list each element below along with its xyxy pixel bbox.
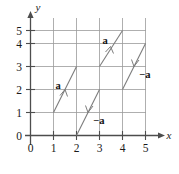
y-axis-arrowhead bbox=[27, 11, 33, 18]
x-tick-label-2: 2 bbox=[74, 142, 80, 154]
x-tick-label-4: 4 bbox=[120, 142, 126, 154]
y-tick-label-3: 3 bbox=[16, 61, 22, 73]
y-tick-label-0: 0 bbox=[16, 130, 22, 142]
grid-lines-horizontal bbox=[31, 31, 147, 113]
y-axis-label: y bbox=[35, 1, 41, 13]
y-tick-label-5: 5 bbox=[16, 25, 22, 37]
x-axis-label: x bbox=[166, 129, 172, 141]
x-axis-arrowhead bbox=[158, 132, 165, 138]
y-tick-label-2: 2 bbox=[16, 84, 22, 96]
y-tick-label-1: 1 bbox=[16, 107, 22, 119]
x-tick-label-0: 0 bbox=[28, 142, 34, 154]
coordinate-plot: 0 1 2 3 4 5 0 1 2 3 4 5 x y a a bbox=[0, 0, 179, 174]
x-tick-labels: 0 1 2 3 4 5 bbox=[28, 142, 149, 154]
vector-diagram-figure: 0 1 2 3 4 5 0 1 2 3 4 5 x y a a bbox=[0, 0, 179, 174]
y-tick-label-4: 4 bbox=[16, 38, 22, 50]
x-axis bbox=[25, 131, 165, 140]
vector-label-neg-a-1: −a bbox=[93, 115, 105, 126]
y-axis bbox=[26, 11, 35, 145]
x-tick-label-1: 1 bbox=[51, 142, 57, 154]
vector-label-neg-a-2: −a bbox=[139, 69, 151, 80]
vector-label-a-1: a bbox=[55, 80, 61, 91]
x-tick-label-3: 3 bbox=[97, 142, 103, 154]
x-tick-label-5: 5 bbox=[143, 142, 149, 154]
vector-a-2: a bbox=[100, 31, 123, 67]
y-tick-labels: 0 1 2 3 4 5 bbox=[16, 25, 22, 142]
vector-label-a-2: a bbox=[102, 35, 108, 46]
